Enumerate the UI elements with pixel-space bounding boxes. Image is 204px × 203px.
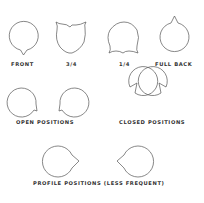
closed-right-shape <box>138 67 167 96</box>
full-back-label: FULL BACK <box>155 61 193 67</box>
full-back-shape <box>160 16 189 52</box>
front-shape <box>9 21 38 55</box>
head-positions-diagram: FRONT 3/4 1/4 FULL BACK OPEN POSITIONS C… <box>0 0 204 203</box>
front-label: FRONT <box>11 61 34 67</box>
closed-left-shape <box>129 67 158 96</box>
three-quarter-shape <box>56 22 86 53</box>
closed-positions-label: CLOSED POSITIONS <box>119 119 185 125</box>
profile-left-shape <box>42 146 79 177</box>
one-quarter-label: 1/4 <box>119 61 130 67</box>
profile-positions-label: PROFILE POSITIONS (LESS FREQUENT) <box>33 180 165 186</box>
one-quarter-shape <box>108 22 139 53</box>
profile-right-shape <box>117 146 154 177</box>
three-quarter-label: 3/4 <box>66 61 77 67</box>
open-positions-label: OPEN POSITIONS <box>16 119 74 125</box>
open-left-shape <box>7 88 37 117</box>
open-right-shape <box>59 88 89 117</box>
